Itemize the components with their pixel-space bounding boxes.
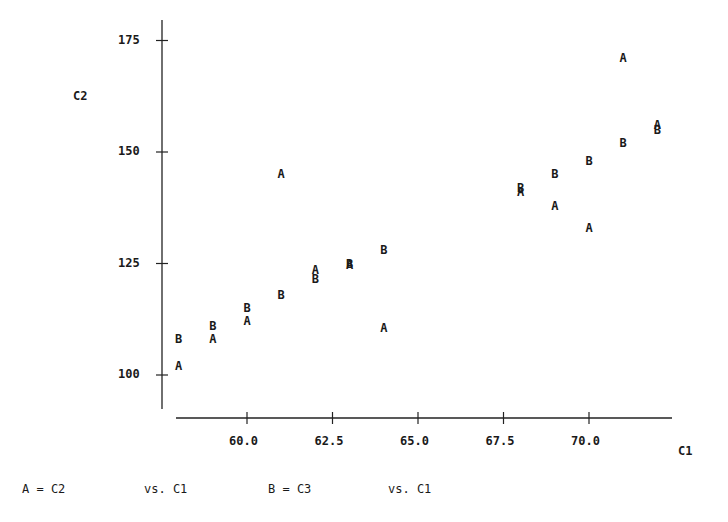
data-points: AAAAAAAAAAAABBBBBBBBBBBB — [175, 51, 662, 373]
data-point-a: A — [585, 221, 593, 235]
data-point-b: B — [278, 288, 285, 302]
legend-a-definition: A = C2 — [22, 482, 65, 496]
data-point-b: B — [620, 136, 627, 150]
x-tick-label: 70.0 — [571, 434, 600, 448]
legend-b-definition: B = C3 — [268, 482, 311, 496]
data-point-b: B — [585, 154, 592, 168]
data-point-b: B — [243, 301, 250, 315]
x-tick-label: 65.0 — [400, 434, 429, 448]
y-axis-label: C2 — [73, 89, 87, 103]
data-point-a: A — [551, 199, 559, 213]
legend-b-versus: vs. C1 — [388, 482, 431, 496]
data-point-b: B — [517, 181, 524, 195]
data-point-a: A — [278, 167, 286, 181]
data-point-a: A — [620, 51, 628, 65]
y-tick-label: 125 — [118, 256, 140, 270]
y-tick-label: 150 — [118, 144, 140, 158]
data-point-a: A — [243, 314, 251, 328]
data-point-a: A — [175, 359, 183, 373]
y-tick-label: 175 — [118, 33, 140, 47]
x-tick-label: 62.5 — [315, 434, 344, 448]
data-point-b: B — [380, 243, 387, 257]
data-point-b: B — [654, 123, 661, 137]
legend-a-versus: vs. C1 — [144, 482, 187, 496]
x-axis-label: C1 — [678, 444, 692, 458]
data-point-b: B — [346, 257, 353, 271]
data-point-a: A — [380, 321, 388, 335]
y-tick-label: 100 — [118, 367, 140, 381]
data-point-b: B — [209, 319, 216, 333]
data-point-b: B — [312, 272, 319, 286]
x-tick-label: 60.0 — [229, 434, 258, 448]
data-point-b: B — [175, 332, 182, 346]
x-tick-label: 67.5 — [486, 434, 515, 448]
scatter-plot: AAAAAAAAAAAABBBBBBBBBBBB — [0, 0, 728, 522]
data-point-a: A — [209, 332, 217, 346]
data-point-b: B — [551, 167, 558, 181]
